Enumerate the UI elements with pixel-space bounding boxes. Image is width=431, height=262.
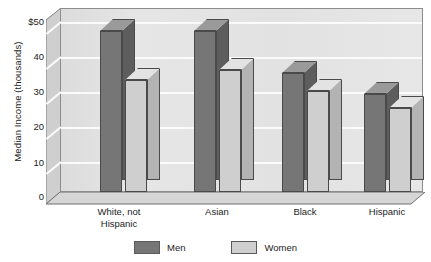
y-axis-tick-labels: $50 40 30 20 10 0 (0, 0, 44, 262)
legend-item-women: Women (231, 241, 297, 254)
legend-swatch-women-icon (231, 241, 257, 254)
bar-women-black (307, 8, 329, 192)
bar-side-face (147, 68, 160, 180)
bar-series-container (46, 8, 425, 204)
bar-men-white-not-hispanic (100, 8, 122, 192)
bar-front-face (389, 108, 411, 192)
y-tick-10: 10 (0, 158, 44, 168)
plot-area (46, 8, 425, 204)
category-label-line1: Asian (172, 206, 262, 218)
category-label-asian: Asian (172, 206, 262, 218)
bar-men-black (282, 8, 304, 192)
income-bar-chart: Median Income (thousands) $50 40 30 20 1… (0, 0, 431, 262)
category-label-line1: Hispanic (342, 206, 431, 218)
legend-label-men: Men (167, 242, 185, 253)
category-label-line1: White, not (74, 206, 164, 218)
bar-front-face (364, 94, 386, 192)
legend-swatch-men-icon (134, 241, 160, 254)
y-tick-50: $50 (0, 17, 44, 27)
chart-legend: Men Women (0, 236, 431, 258)
category-label-line1: Black (260, 206, 350, 218)
bar-front-face (282, 73, 304, 192)
y-tick-0: 0 (0, 192, 44, 202)
category-label-black: Black (260, 206, 350, 218)
plot-floor-outline (46, 192, 425, 205)
legend-item-men: Men (134, 241, 185, 254)
bar-front-face (125, 80, 147, 192)
bar-side-face (411, 96, 424, 180)
bar-side-face (329, 79, 342, 180)
category-label-white-not-hispanic: White, not Hispanic (74, 206, 164, 229)
bar-side-face (241, 58, 254, 180)
category-label-hispanic: Hispanic (342, 206, 431, 218)
bar-women-hispanic (389, 8, 411, 192)
bar-front-face (307, 91, 329, 192)
bar-front-face (100, 31, 122, 192)
legend-label-women: Women (264, 242, 297, 253)
bar-men-hispanic (364, 8, 386, 192)
bar-men-asian (194, 8, 216, 192)
y-tick-30: 30 (0, 87, 44, 97)
bar-front-face (194, 31, 216, 192)
bar-front-face (219, 70, 241, 192)
bar-women-asian (219, 8, 241, 192)
category-label-line2: Hispanic (74, 218, 164, 230)
y-tick-20: 20 (0, 122, 44, 132)
y-tick-40: 40 (0, 52, 44, 62)
x-axis-category-labels: White, not Hispanic Asian Black Hispanic (46, 206, 425, 240)
bar-women-white-not-hispanic (125, 8, 147, 192)
